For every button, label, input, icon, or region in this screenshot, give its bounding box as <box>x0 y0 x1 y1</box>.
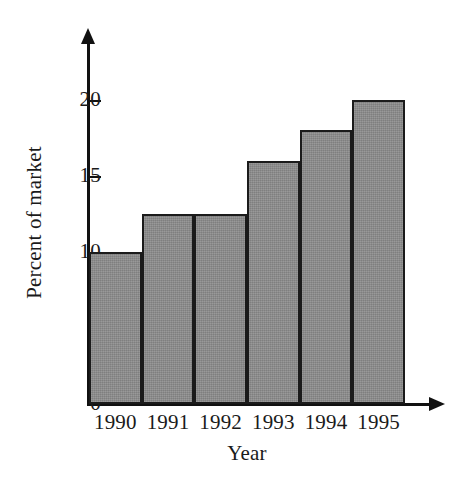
x-axis-title: Year <box>89 443 405 464</box>
bar-1992 <box>194 214 247 404</box>
x-axis-tick-labels: 1990 1991 1992 1993 1994 1995 <box>89 410 405 438</box>
y-axis-title: Percent of market <box>24 123 45 323</box>
bar-1995 <box>352 100 405 404</box>
x-tick-label-1993: 1993 <box>247 410 300 434</box>
x-tick-label-1995: 1995 <box>352 410 405 434</box>
x-tick-label-1994: 1994 <box>300 410 353 434</box>
bar-1991 <box>142 214 195 404</box>
x-tick-label-1992: 1992 <box>194 410 247 434</box>
bar-chart-figure: 20 15 10 5 0 1990 1991 1992 1993 1994 19… <box>0 0 463 485</box>
bar-1994 <box>300 130 353 404</box>
x-tick-label-1991: 1991 <box>142 410 195 434</box>
bar-1990 <box>89 252 142 404</box>
x-tick-label-1990: 1990 <box>89 410 142 434</box>
bar-1993 <box>247 161 300 404</box>
x-axis-arrow-icon <box>429 397 445 411</box>
bars-layer <box>89 40 405 404</box>
